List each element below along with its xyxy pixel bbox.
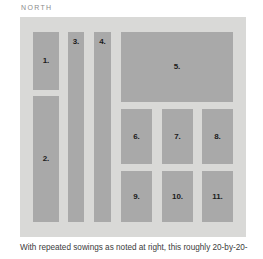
garden-bed-7: 7. xyxy=(162,109,193,164)
garden-bed-label: 9. xyxy=(133,193,140,201)
garden-bed-label: 5. xyxy=(174,63,181,71)
garden-bed-11: 11. xyxy=(202,171,233,222)
garden-bed-1: 1. xyxy=(33,32,59,90)
garden-bed-label: 11. xyxy=(212,193,223,201)
garden-bed-4: 4. xyxy=(94,32,111,222)
garden-bed-10: 10. xyxy=(162,171,193,222)
garden-bed-label: 6. xyxy=(133,133,140,141)
garden-bed-label: 2. xyxy=(43,155,50,163)
garden-bed-label: 8. xyxy=(214,133,221,141)
garden-bed-5: 5. xyxy=(121,32,233,102)
garden-plan-figure: NORTH 1.2.3.4.5.6.7.8.9.10.11. With repe… xyxy=(0,0,263,259)
north-orientation-label: NORTH xyxy=(21,4,53,11)
garden-bed-label: 7. xyxy=(174,133,181,141)
garden-bed-label: 10. xyxy=(172,193,183,201)
garden-bed-9: 9. xyxy=(121,171,152,222)
garden-bed-label: 1. xyxy=(43,57,50,65)
figure-caption: With repeated sowings as noted at right,… xyxy=(20,242,263,253)
garden-bed-label: 4. xyxy=(99,38,106,46)
garden-bed-8: 8. xyxy=(202,109,233,164)
garden-bed-6: 6. xyxy=(121,109,152,164)
garden-bed-label: 3. xyxy=(73,38,80,46)
garden-plan-area: 1.2.3.4.5.6.7.8.9.10.11. xyxy=(20,17,246,237)
garden-bed-3: 3. xyxy=(68,32,84,222)
garden-bed-2: 2. xyxy=(33,96,59,222)
